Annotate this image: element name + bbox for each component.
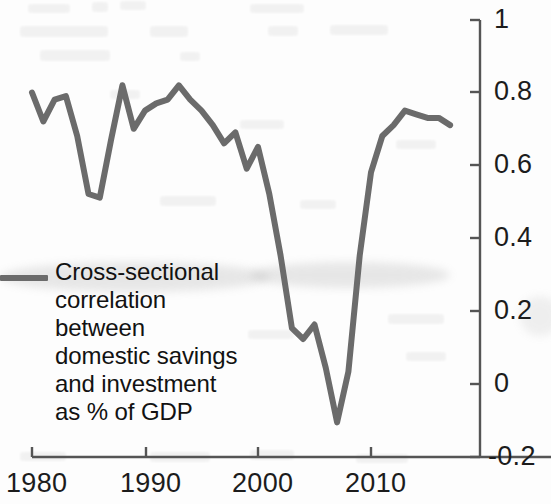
y-tick-label--0.2: -0.2 bbox=[488, 443, 536, 470]
x-tick-label-2000: 2000 bbox=[232, 470, 293, 497]
chart-svg bbox=[0, 0, 551, 504]
plot-area bbox=[0, 0, 551, 504]
x-tick-label-1980: 1980 bbox=[6, 470, 67, 497]
chart-figure: 1 0.8 0.6 0.4 0.2 0 -0.2 1980 1990 2000 … bbox=[0, 0, 551, 504]
x-tick-label-1990: 1990 bbox=[120, 470, 181, 497]
y-tick-label-0: 0 bbox=[494, 370, 509, 397]
y-tick-label-0.8: 0.8 bbox=[494, 78, 532, 105]
y-tick-label-0.2: 0.2 bbox=[494, 297, 532, 324]
x-tick-label-2010: 2010 bbox=[345, 470, 406, 497]
y-tick-label-1: 1 bbox=[494, 6, 509, 33]
y-tick-label-0.6: 0.6 bbox=[494, 151, 532, 178]
legend-line-swatch bbox=[0, 275, 48, 281]
legend-label-correlation: Cross-sectional correlation between dome… bbox=[55, 258, 240, 426]
y-tick-label-0.4: 0.4 bbox=[494, 224, 532, 251]
